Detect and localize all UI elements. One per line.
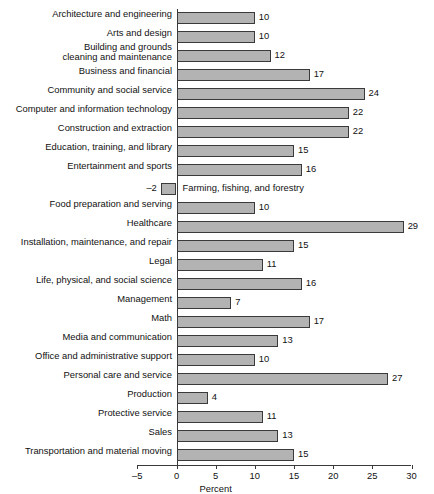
bar-value-label: 13 [282,334,292,347]
category-label: Construction and extraction [0,123,172,133]
bar-value-label: 24 [369,87,379,100]
bar [177,202,255,215]
bar-row: 15Installation, maintenance, and repair [0,237,434,256]
bar-row: 16Entertainment and sports [0,161,434,180]
bar-value-label: 4 [212,391,217,404]
category-label: Computer and information technology [0,104,172,114]
bar [177,373,389,386]
bar-row: 22Computer and information technology [0,104,434,123]
x-tick [412,465,413,469]
x-tick-label: 30 [397,470,427,482]
bar [177,449,295,462]
bar-row: 27Personal care and service [0,370,434,389]
bar-value-label: 15 [298,448,308,461]
category-label: Education, training, and library [0,142,172,152]
bar [161,183,177,196]
bar [177,316,310,329]
bar [177,354,255,367]
bar-value-label: 11 [267,258,277,271]
bar-row: 10Office and administrative support [0,351,434,370]
bar [177,411,263,424]
x-axis-line [137,465,411,466]
bar-row: 13Media and communication [0,332,434,351]
bar [177,297,232,310]
category-label: Healthcare [0,218,172,228]
category-label: Transportation and material moving [0,446,172,456]
bar-value-label: 15 [298,239,308,252]
x-tick [177,465,178,469]
x-tick-label: 20 [318,470,348,482]
bar [177,88,365,101]
bar-row: 11Legal [0,256,434,275]
category-label: Arts and design [0,28,172,38]
category-label: Management [0,294,172,304]
category-label: Building and grounds cleaning and mainte… [0,42,172,63]
category-label: Food preparation and serving [0,199,172,209]
bar-value-label: 16 [306,277,316,290]
bar [177,221,404,234]
bar-value-label: 10 [259,353,269,366]
category-label: Legal [0,256,172,266]
bar-row: 11Protective service [0,408,434,427]
bar-row: 12Building and grounds cleaning and main… [0,47,434,66]
bar-value-label: 22 [353,125,363,138]
bar-value-label: 27 [392,372,402,385]
bar-row: 15Transportation and material moving [0,446,434,465]
bar-value-label: 10 [259,11,269,24]
bar-value-label: 7 [235,296,240,309]
x-tick [137,465,138,469]
bar [177,240,295,253]
category-label: Architecture and engineering [0,9,172,19]
bar-value-label: 17 [314,68,324,81]
bar-row: 4Production [0,389,434,408]
category-label: Personal care and service [0,370,172,380]
bar-value-label: 12 [275,49,285,62]
x-tick-label: 25 [357,470,387,482]
bar [177,145,295,158]
bar-row: 16Life, physical, and social science [0,275,434,294]
bar [177,430,279,443]
category-label: Entertainment and sports [0,161,172,171]
bar-row: 24Community and social service [0,85,434,104]
bar-value-label: 10 [259,30,269,43]
x-tick-label: –5 [122,470,152,482]
bar-value-label: 10 [259,201,269,214]
x-tick [294,465,295,469]
bar [177,278,302,291]
x-axis-title: Percent [176,483,256,494]
bar-value-label: 15 [298,144,308,157]
bar-value-label: 13 [282,429,292,442]
bar-row: 10Architecture and engineering [0,9,434,28]
bar [177,164,302,177]
bar-value-label: 17 [314,315,324,328]
x-tick-label: 0 [162,470,192,482]
category-label: Farming, fishing, and forestry [183,182,304,195]
x-tick [216,465,217,469]
bar-value-label: –2 [139,182,157,195]
bar-value-label: 29 [408,220,418,233]
x-tick-label: 10 [240,470,270,482]
category-label: Installation, maintenance, and repair [0,237,172,247]
bar-row: 22Construction and extraction [0,123,434,142]
bar [177,50,271,63]
bar-row: 29Healthcare [0,218,434,237]
x-tick [333,465,334,469]
zero-axis-line [177,9,178,465]
category-label: Sales [0,427,172,437]
bar [177,126,349,139]
bar-row: 15Education, training, and library [0,142,434,161]
bar [177,259,263,272]
bar [177,69,310,82]
category-label: Community and social service [0,85,172,95]
x-tick [372,465,373,469]
category-label: Protective service [0,408,172,418]
category-label: Office and administrative support [0,351,172,361]
x-tick-label: 5 [201,470,231,482]
category-label: Production [0,389,172,399]
bar-row: 17Business and financial [0,66,434,85]
bar-value-label: 16 [306,163,316,176]
chart-rows: 10Architecture and engineering10Arts and… [0,9,434,465]
x-tick-label: 15 [279,470,309,482]
bar-row: 10Food preparation and serving [0,199,434,218]
